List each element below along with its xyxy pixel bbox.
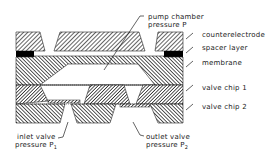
outlet-valve-line2: pressure P (146, 141, 185, 149)
valve-chip-1-label: valve chip 1 (202, 84, 247, 92)
outlet-valve-line1: outlet valve (146, 133, 190, 141)
pump-chamber-label: pump chamber pressure P (148, 13, 204, 29)
valve-chip-2-label: valve chip 2 (202, 103, 247, 111)
membrane-layer (16, 56, 183, 85)
outlet-valve-label: outlet valve pressure P2 (146, 133, 190, 151)
pump-chamber-line2: pressure P (148, 21, 204, 29)
inlet-valve-label: inlet valve pressure P1 (15, 133, 57, 151)
counterelectrode-label: counterelectrode (202, 31, 265, 39)
membrane-label: membrane (202, 59, 242, 67)
inlet-valve-line1: inlet valve (15, 133, 57, 141)
outlet-valve-subscript: 2 (185, 144, 188, 150)
pump-chamber-line1: pump chamber (148, 13, 204, 21)
spacer-layer-label: spacer layer (202, 44, 248, 52)
counterelectrode-layer (16, 32, 183, 51)
inlet-valve-subscript: 1 (54, 144, 57, 150)
inlet-valve-line2: pressure P (15, 141, 54, 149)
